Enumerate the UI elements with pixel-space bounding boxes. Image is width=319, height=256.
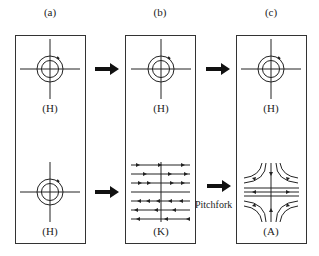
limit-cycle-icon-c-top xyxy=(241,39,301,99)
label-a-top: (H) xyxy=(30,102,70,114)
label-c-bottom: (A) xyxy=(251,225,291,237)
pitchfork-label: Pitchfork xyxy=(195,199,232,210)
limit-cycle-icon-b-top xyxy=(131,39,191,99)
arrow-right-icon xyxy=(207,180,231,192)
label-a-bottom: (H) xyxy=(30,225,70,237)
label-c-top: (H) xyxy=(251,102,291,114)
label-b-top: (H) xyxy=(141,102,181,114)
diagram-canvas xyxy=(0,0,319,256)
transition-arrows xyxy=(95,63,231,198)
parallel-flow-icon-b-bottom xyxy=(131,162,190,222)
limit-cycle-icon-a-top xyxy=(20,39,80,99)
arrow-right-icon xyxy=(206,63,230,75)
label-b-bottom: (K) xyxy=(141,225,181,237)
arrow-right-icon xyxy=(95,63,119,75)
arrow-right-icon xyxy=(95,186,119,198)
limit-cycle-icon-a-bottom xyxy=(20,162,80,222)
saddle-icon-c-bottom xyxy=(244,163,299,222)
